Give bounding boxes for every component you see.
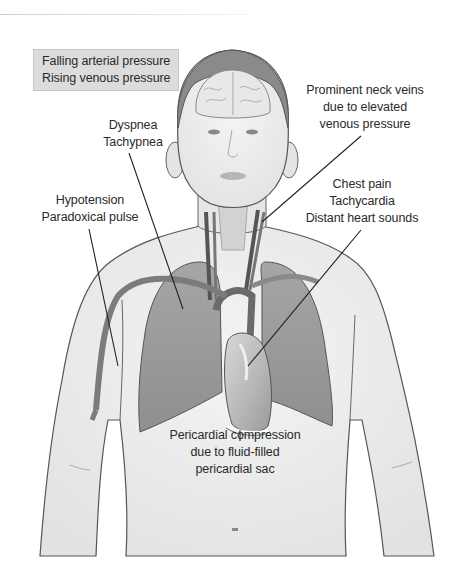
navel	[232, 528, 238, 531]
neck-veins-label: Prominent neck veins due to elevated ven…	[290, 82, 440, 133]
heart	[225, 333, 272, 435]
pressure-line-2: Rising venous pressure	[42, 70, 170, 87]
pericardial-label: Pericardial compression due to fluid-fil…	[160, 427, 310, 478]
circulatory-label: Hypotension Paradoxical pulse	[25, 192, 155, 226]
pressure-label-box: Falling arterial pressure Rising venous …	[33, 49, 179, 91]
cardiac-label: Chest pain Tachycardia Distant heart sou…	[292, 176, 432, 227]
pressure-line-1: Falling arterial pressure	[42, 53, 170, 70]
respiratory-label: Dyspnea Tachypnea	[88, 117, 178, 151]
tamponade-diagram: Falling arterial pressure Rising venous …	[0, 0, 453, 581]
head	[166, 50, 298, 208]
